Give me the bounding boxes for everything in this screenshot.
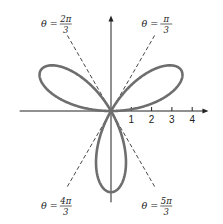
label-numerator: 5π xyxy=(161,196,172,206)
label-prefix: θ = xyxy=(41,200,58,211)
label-theta-2pi-3: θ =2π3 xyxy=(41,14,72,35)
label-prefix: θ = xyxy=(142,200,159,211)
label-theta-4pi-3: θ =4π3 xyxy=(41,196,72,217)
label-numerator: π xyxy=(162,14,169,24)
axes: 1234 xyxy=(20,16,209,203)
label-denominator: 3 xyxy=(63,25,68,35)
label-prefix: θ = xyxy=(142,18,159,29)
x-tick-label-1: 1 xyxy=(129,114,135,125)
y-axis-arrow-icon xyxy=(109,16,114,22)
polar-rose-chart: 1234 θ =2π3θ =π3θ =4π3θ =5π3 xyxy=(0,0,223,224)
x-axis-ticks: 1234 xyxy=(129,107,196,125)
label-prefix: θ = xyxy=(41,18,58,29)
x-tick-label-4: 4 xyxy=(189,114,195,125)
label-theta-pi-3: θ =π3 xyxy=(142,14,173,35)
label-theta-5pi-3: θ =5π3 xyxy=(142,196,173,217)
label-numerator: 2π xyxy=(59,14,71,24)
label-denominator: 3 xyxy=(164,207,169,217)
x-tick-label-3: 3 xyxy=(169,114,175,125)
x-axis-arrow-icon xyxy=(202,109,208,114)
label-denominator: 3 xyxy=(63,207,68,217)
x-tick-label-2: 2 xyxy=(149,114,155,125)
label-denominator: 3 xyxy=(164,25,169,35)
label-numerator: 4π xyxy=(59,196,71,206)
